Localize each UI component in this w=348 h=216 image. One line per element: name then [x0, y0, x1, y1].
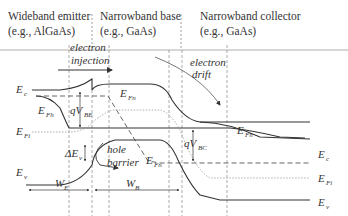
efi-right-label: E [317, 172, 325, 184]
ev-left-sub: v [24, 173, 28, 181]
ev-right-sub: v [326, 203, 330, 211]
collector-title: Narrowband collector [200, 10, 301, 22]
we-sub: E [63, 184, 69, 192]
efh-right-sub: Fh [244, 131, 253, 139]
efh-left-sub: Fh [45, 111, 54, 119]
ev-right-label: E [317, 196, 325, 208]
electron-drift-label-1: electron [190, 56, 226, 68]
qvbe-label: qV [70, 104, 84, 116]
ev-left-label: E [15, 166, 23, 178]
emitter-example: (e.g., AlGaAs) [8, 25, 75, 38]
efn-top-label: E [119, 87, 127, 99]
electron-injection-label-1: electron [70, 41, 106, 53]
ec-right-label: E [317, 148, 325, 160]
wb-sub: B [135, 184, 140, 192]
hole-barrier-label-1: hole [107, 143, 126, 155]
emitter-title: Wideband emitter [8, 10, 90, 22]
efh-left-label: E [37, 104, 45, 116]
efi-left-sub: Fi [23, 132, 30, 140]
electron-drift-label-2: drift [192, 68, 212, 80]
base-title: Narrowband base [100, 10, 181, 22]
hbt-band-diagram: Wideband emitter (e.g., AlGaAs) Narrowba… [0, 0, 348, 216]
efn-bottom-sub: Fn [153, 161, 162, 169]
efi-right-sub: Fi [325, 179, 332, 187]
collector-example: (e.g., GaAs) [200, 25, 256, 38]
band-diagram-svg: Wideband emitter (e.g., AlGaAs) Narrowba… [0, 0, 348, 216]
qvbc-sub: BC [198, 144, 207, 152]
conduction-band-tail [200, 122, 310, 139]
intrinsic-fermi-level [32, 110, 310, 178]
ec-left-label: E [15, 83, 23, 95]
efn-bottom-label: E [145, 154, 153, 166]
hole-barrier-label-2: barrier [107, 156, 140, 168]
efh-right-label: E [236, 124, 244, 136]
ec-right-sub: c [326, 155, 330, 163]
delta-ev-label: ΔE [64, 147, 78, 159]
qvbc-label: qV [184, 137, 198, 149]
efi-left-label: E [15, 125, 23, 137]
efn-top-sub: Fn [127, 94, 136, 102]
base-example: (e.g., GaAs) [100, 25, 156, 38]
ec-left-sub: c [24, 90, 28, 98]
qvbe-sub: BE [84, 111, 93, 119]
electron-injection-label-2: injection [71, 54, 110, 66]
delta-ev-sub: v [79, 154, 83, 162]
